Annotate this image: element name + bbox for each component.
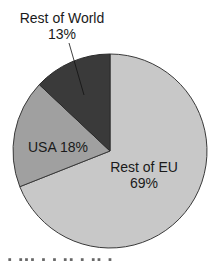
label-rest-of-world-name: Rest of World [20, 10, 105, 26]
pie-chart: Rest of World 13% USA 18% Rest of EU 69% [0, 0, 216, 261]
label-rest-of-eu-name: Rest of EU [110, 159, 178, 175]
label-rest-of-eu-pct: 69% [130, 175, 158, 191]
cropped-caption-fragment: ▪ ▪▪▪ ▪ ▪ ▪▪ ▪ ▪▪ ▪ [8, 253, 158, 261]
label-rest-of-world-pct: 13% [48, 26, 76, 42]
label-usa: USA 18% [28, 139, 88, 155]
